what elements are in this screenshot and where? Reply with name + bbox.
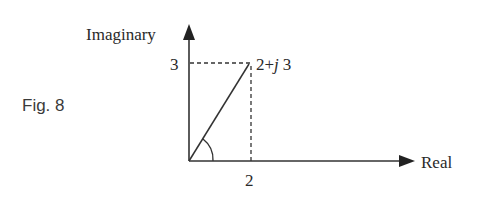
imaginary-axis-label: Imaginary — [86, 25, 156, 44]
real-axis-arrowhead — [399, 155, 415, 167]
point-label-j: j — [272, 55, 279, 74]
phasor-vector — [189, 64, 249, 161]
point-label-re: 2 — [256, 55, 265, 74]
argand-diagram: Imaginary Real 3 2 2+j3 — [0, 0, 483, 200]
point-label-op: + — [265, 55, 275, 74]
point-label: 2+j3 — [256, 55, 291, 74]
y-tick-3: 3 — [170, 55, 179, 74]
x-tick-2: 2 — [245, 171, 254, 190]
real-axis-label: Real — [421, 153, 452, 172]
imaginary-axis-arrowhead — [183, 24, 195, 40]
angle-arc — [203, 139, 213, 161]
point-label-im: 3 — [283, 55, 292, 74]
